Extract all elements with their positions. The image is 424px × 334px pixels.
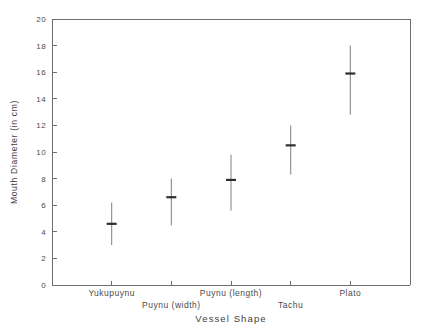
data-series-group <box>107 46 356 246</box>
x-axis-tick-label: Puynu (width) <box>142 300 200 310</box>
data-point-group <box>226 155 236 211</box>
x-axis-tick-label: Puynu (length) <box>200 288 262 298</box>
y-axis-title: Mouth Diameter (in cm) <box>9 100 19 204</box>
data-point-group <box>286 125 296 174</box>
y-axis-tick-label: 18 <box>36 42 46 51</box>
x-axis-title: Vessel Shape <box>195 313 266 324</box>
y-axis-tick-label: 8 <box>41 175 46 184</box>
y-axis-tick-label: 16 <box>36 68 46 77</box>
y-axis-tick-label: 2 <box>41 254 46 263</box>
y-axis-tick-label: 12 <box>36 121 46 130</box>
data-point-group <box>166 179 176 226</box>
x-axis-tick-label: Tachu <box>278 300 303 310</box>
x-axis-label-group: YukupuynuPuynu (width)Puynu (length)Tach… <box>88 288 361 310</box>
x-axis-tick-group <box>112 281 351 285</box>
chart-container: 02468101214161820 YukupuynuPuynu (width)… <box>0 0 424 334</box>
mouth-diameter-error-bar-chart: 02468101214161820 YukupuynuPuynu (width)… <box>0 0 424 334</box>
x-axis-tick-label: Yukupuynu <box>88 288 135 298</box>
y-axis-tick-label: 10 <box>36 148 46 157</box>
y-axis-tick-label: 6 <box>41 201 46 210</box>
y-axis-tick-label: 0 <box>41 281 46 290</box>
data-point-group <box>107 203 117 246</box>
x-axis-tick-label: Plato <box>339 288 361 298</box>
data-point-group <box>345 46 355 115</box>
y-axis-tick-group <box>52 19 57 285</box>
y-axis-tick-label: 4 <box>41 228 46 237</box>
y-axis-label-group: 02468101214161820 <box>36 15 46 290</box>
y-axis-tick-label: 14 <box>36 95 46 104</box>
y-axis-tick-label: 20 <box>36 15 46 24</box>
